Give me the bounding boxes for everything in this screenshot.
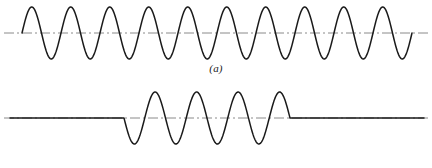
sine-wave-trace-a	[22, 7, 412, 59]
gated-burst-plot	[0, 82, 432, 168]
panel-continuous-sine: (a)	[0, 0, 432, 82]
waveform-figure: (a) (b)	[0, 0, 432, 168]
panel-gated-burst: (b)	[0, 82, 432, 168]
panel-caption-a: (a)	[0, 62, 432, 74]
